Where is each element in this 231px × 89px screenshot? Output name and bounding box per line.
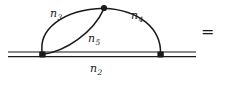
n2-eikonal-double-line <box>8 52 196 57</box>
right-vertex-dot <box>157 51 163 57</box>
label-n2: n2 <box>90 63 102 74</box>
left-vertex-dot <box>39 51 45 57</box>
equals-sign: = <box>201 24 214 40</box>
top-vertex-dot <box>101 5 107 11</box>
label-n5: n5 <box>88 33 100 44</box>
label-n4: n4 <box>131 10 143 21</box>
feynman-diagram-figure: n3 n4 n5 n2 = <box>0 0 231 89</box>
diagram-canvas <box>0 0 231 89</box>
label-n3: n3 <box>50 8 62 19</box>
